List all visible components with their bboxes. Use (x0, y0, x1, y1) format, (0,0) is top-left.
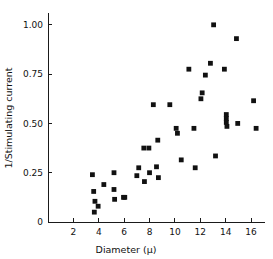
y-axis-label: 1/Stimulating current (3, 67, 14, 168)
data-point-41 (251, 98, 256, 103)
data-point-29 (200, 90, 205, 95)
y-tick-label-0: 0 (37, 217, 43, 227)
scatter-plot-figure: 00.250.500.751.00246810121416 Diameter (… (0, 0, 273, 259)
data-points (90, 22, 259, 214)
data-point-19 (155, 138, 160, 143)
data-point-20 (156, 175, 161, 180)
data-point-7 (112, 187, 117, 192)
tick-labels: 00.250.500.751.00246810121416 (23, 20, 257, 237)
y-tick-label-4: 1.00 (23, 20, 43, 30)
plot-canvas: 00.250.500.751.00246810121416 Diameter (… (0, 0, 273, 259)
data-point-33 (213, 154, 218, 159)
data-point-39 (234, 36, 239, 41)
data-point-34 (222, 67, 227, 72)
data-point-42 (254, 126, 259, 131)
data-point-38 (225, 124, 230, 129)
y-tick-label-2: 0.50 (23, 119, 43, 129)
data-point-1 (91, 189, 96, 194)
data-point-40 (235, 121, 240, 126)
x-tick-label-0: 2 (71, 227, 77, 237)
data-point-24 (179, 157, 184, 162)
data-point-32 (211, 22, 216, 27)
data-point-25 (186, 67, 191, 72)
data-point-28 (199, 96, 204, 101)
data-point-6 (112, 170, 117, 175)
data-point-27 (193, 165, 198, 170)
data-point-22 (174, 126, 179, 131)
data-point-26 (192, 126, 197, 131)
data-point-14 (142, 179, 147, 184)
data-point-18 (154, 164, 159, 169)
data-point-31 (208, 61, 213, 66)
data-point-21 (167, 102, 172, 107)
data-point-5 (101, 182, 106, 187)
data-point-17 (151, 102, 156, 107)
x-tick-label-5: 12 (195, 227, 206, 237)
y-tick-label-1: 0.25 (23, 168, 43, 178)
tick-marks (48, 25, 251, 222)
data-point-0 (90, 172, 95, 177)
data-point-2 (93, 199, 98, 204)
data-point-23 (175, 131, 180, 136)
data-point-4 (96, 204, 101, 209)
axes (48, 13, 265, 222)
data-point-15 (146, 146, 151, 151)
data-point-3 (92, 210, 97, 215)
data-point-8 (112, 197, 117, 202)
data-point-11 (134, 173, 139, 178)
data-point-30 (203, 73, 208, 78)
data-point-10 (122, 195, 127, 200)
x-tick-label-3: 8 (147, 227, 153, 237)
x-axis-label: Diameter (μ) (96, 244, 157, 255)
data-point-13 (141, 146, 146, 151)
x-tick-label-2: 6 (121, 227, 127, 237)
data-point-16 (147, 170, 152, 175)
x-tick-label-1: 4 (96, 227, 102, 237)
x-tick-label-4: 10 (169, 227, 181, 237)
x-tick-label-7: 16 (245, 227, 257, 237)
data-point-12 (136, 165, 141, 170)
y-tick-label-3: 0.75 (23, 69, 43, 79)
x-tick-label-6: 14 (220, 227, 232, 237)
